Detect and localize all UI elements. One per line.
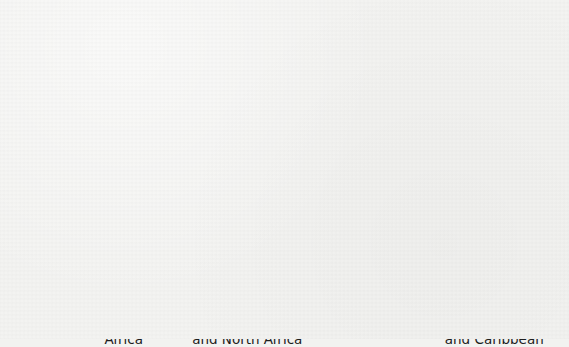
y-axis-tick-label: 60 (0, 13, 52, 31)
gridline (63, 71, 555, 72)
bar (464, 222, 526, 311)
y-axis-tick-label: 20 (0, 206, 52, 224)
x-axis-tick-label: Latin America and Caribbean (421, 317, 569, 347)
y-axis-tick-label: 40 (0, 110, 52, 128)
plot-area (62, 22, 556, 312)
bar (341, 57, 403, 311)
y-axis-tick-label: 0 (0, 303, 52, 321)
bar (94, 108, 156, 311)
y-axis-tick-label: 10 (0, 255, 52, 273)
chart-title-cropped: Poverty Headcount (62, 0, 362, 5)
y-axis-tick-label: 30 (0, 158, 52, 176)
y-axis-tick-label: 50 (0, 61, 52, 79)
bar (217, 200, 279, 311)
